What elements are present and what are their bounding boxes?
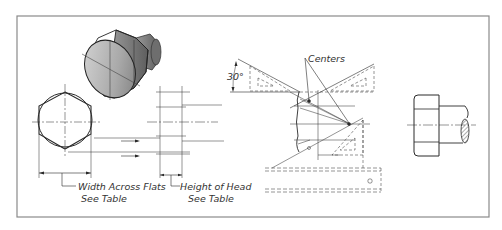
height-see-table-label: See Table	[188, 193, 234, 204]
height-of-head-construction	[147, 86, 224, 186]
width-see-table-label: See Table	[81, 193, 127, 204]
chamfer-construction	[230, 58, 381, 192]
hex-bolt-drawing: Width Across Flats See Table Height of H…	[0, 0, 502, 230]
angle-label: 30°	[227, 71, 244, 82]
centers-label: Centers	[308, 53, 345, 64]
pictorial-bolt	[75, 30, 161, 107]
bolt-side-view	[407, 95, 476, 156]
width-across-flats-label: Width Across Flats	[78, 181, 166, 192]
hex-front-view	[32, 84, 190, 186]
height-of-head-label: Height of Head	[180, 181, 252, 192]
